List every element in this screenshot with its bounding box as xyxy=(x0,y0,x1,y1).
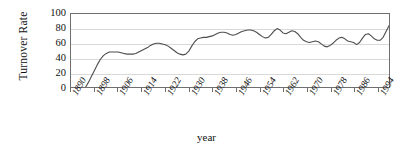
y-tick-label: 0 xyxy=(38,83,66,93)
y-tick-label: 20 xyxy=(38,68,66,78)
y-tick-label: 40 xyxy=(38,53,66,63)
y-axis-tick-labels: 100806040200 xyxy=(38,8,66,92)
x-axis-tick-labels: 1890189819061914192219301938194619541962… xyxy=(70,92,390,128)
y-tick-label: 100 xyxy=(38,8,66,18)
y-tick-label: 80 xyxy=(38,23,66,33)
y-tick-label: 60 xyxy=(38,38,66,48)
x-axis-title-text: year xyxy=(197,131,216,143)
y-axis-title: Turnover Rate xyxy=(14,0,32,92)
chart-figure: Turnover Rate 100806040200 1890189819061… xyxy=(0,0,413,152)
x-axis-title: year xyxy=(0,131,413,143)
y-axis-title-text: Turnover Rate xyxy=(17,12,29,81)
